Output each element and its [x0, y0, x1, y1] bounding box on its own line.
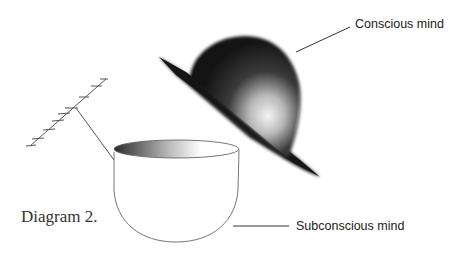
- conscious-mind-leader-line: [296, 27, 350, 52]
- antenna-cable: [76, 108, 114, 160]
- antenna-icon: [26, 79, 114, 160]
- bowl-icon: [114, 140, 239, 242]
- conscious-mind-label: Conscious mind: [355, 17, 444, 31]
- diagram-caption: Diagram 2.: [21, 207, 97, 226]
- subconscious-mind-label: Subconscious mind: [296, 219, 404, 233]
- diagram-canvas: Conscious mind Subconscious mind Diagram…: [0, 0, 467, 257]
